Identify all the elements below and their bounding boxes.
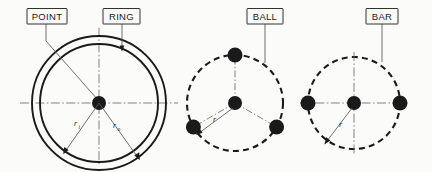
- inner-radius-dimension-line: [66, 103, 100, 151]
- point-leader-line: [46, 24, 98, 100]
- outer-radius-subscript: o: [117, 126, 120, 132]
- bar-mass-left: [301, 96, 316, 111]
- bar-hub-mass: [347, 96, 361, 110]
- ball-hub-mass: [228, 96, 242, 110]
- figure-ball: r BALL: [186, 9, 284, 152]
- point-label: POINT: [32, 11, 63, 22]
- ball-label: BALL: [253, 11, 277, 22]
- inertia-shapes-figure: r i r o POINT RING: [0, 0, 432, 172]
- figure-ring-point: r i r o POINT RING: [20, 9, 178, 171]
- outer-radius-label: r: [113, 121, 117, 130]
- ring-label: RING: [109, 11, 134, 22]
- inner-radius-subscript: i: [78, 124, 80, 130]
- figure-bar: r BAR: [300, 9, 408, 155]
- ball-mass-lower-right: [269, 120, 284, 135]
- bar-label: BAR: [372, 11, 392, 22]
- ball-mass-top: [228, 48, 243, 63]
- bar-mass-right: [393, 96, 408, 111]
- inner-radius-label: r: [74, 119, 78, 128]
- ball-radius-label: r: [213, 115, 217, 124]
